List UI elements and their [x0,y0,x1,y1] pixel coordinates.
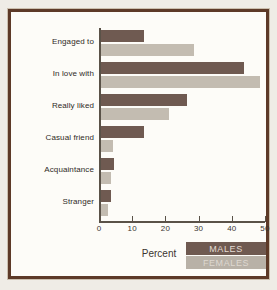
bar-group: Really liked [101,94,267,120]
bar-females [101,204,108,216]
x-tick-label-50: 50 [253,224,277,233]
bar-males [101,190,111,202]
x-tick-label-40: 40 [220,224,244,233]
legend-label-females: FEMALES [203,258,249,268]
figure-frame: 01020304050 Engaged toIn love withReally… [8,9,269,279]
category-label: Stranger [63,198,101,206]
bar-females [101,172,111,184]
x-axis-line [99,221,265,223]
x-tick-label-0: 0 [87,224,111,233]
bar-males [101,30,144,42]
category-label: Casual friend [46,134,101,142]
x-tick-50 [265,216,266,222]
x-tick-label-20: 20 [153,224,177,233]
bar-females [101,44,194,56]
figure-canvas: 01020304050 Engaged toIn love withReally… [11,12,266,276]
x-tick-0 [99,216,100,222]
chart-legend: MALES FEMALES [186,242,266,270]
legend-label-males: MALES [209,244,243,254]
bar-males [101,62,244,74]
bar-males [101,158,114,170]
legend-item-females: FEMALES [186,256,266,269]
bar-females [101,108,169,120]
bar-chart-plot: 01020304050 Engaged toIn love withReally… [11,12,266,276]
bar-females [101,76,260,88]
category-label: Really liked [52,102,101,110]
category-label: Engaged to [52,38,101,46]
bar-group: In love with [101,62,267,88]
x-tick-label-10: 10 [120,224,144,233]
bar-group: Acquaintance [101,158,267,184]
x-tick-label-30: 30 [187,224,211,233]
x-tick-20 [165,216,166,222]
legend-item-males: MALES [186,242,266,255]
scanned-page: 01020304050 Engaged toIn love withReally… [0,0,277,290]
x-tick-30 [199,216,200,222]
bar-group: Stranger [101,190,267,216]
bar-females [101,140,113,152]
bar-males [101,126,144,138]
bar-group: Engaged to [101,30,267,56]
bar-males [101,94,187,106]
x-tick-10 [132,216,133,222]
category-label: Acquaintance [44,166,101,174]
x-tick-40 [232,216,233,222]
bar-group: Casual friend [101,126,267,152]
category-label: In love with [53,70,101,78]
